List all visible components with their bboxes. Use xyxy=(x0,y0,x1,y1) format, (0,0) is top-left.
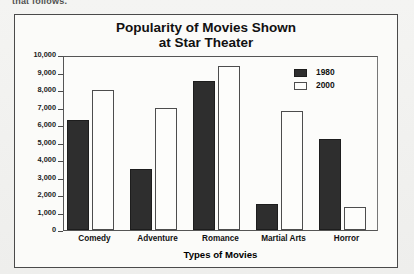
legend-swatch-2000 xyxy=(294,82,307,90)
y-axis-tick-label: 0 xyxy=(52,225,56,234)
chart-title: Popularity of Movies Shown at Star Theat… xyxy=(15,20,397,50)
bar-group xyxy=(64,57,127,230)
x-axis-label-horror: Horror xyxy=(315,234,378,243)
bar-adventure-2000 xyxy=(155,108,177,231)
y-axis-tick-label: 1,000 xyxy=(38,208,57,217)
legend-swatch-1980 xyxy=(294,69,307,77)
legend-label-1980: 1980 xyxy=(316,68,335,76)
chart-legend: 19802000 xyxy=(294,67,335,93)
top-caption: that follows. xyxy=(12,0,67,6)
bar-group xyxy=(190,57,253,230)
y-axis-tick-label: 9,000 xyxy=(38,68,57,77)
bar-horror-2000 xyxy=(344,207,366,230)
bar-romance-2000 xyxy=(218,66,240,231)
chart-title-line-1: Popularity of Movies Shown xyxy=(15,20,397,35)
bar-comedy-1980 xyxy=(67,120,89,230)
bar-adventure-1980 xyxy=(130,169,152,230)
x-axis-title: Types of Movies xyxy=(63,249,378,260)
x-axis-label-comedy: Comedy xyxy=(63,234,126,243)
y-axis-tick-label: 4,000 xyxy=(38,155,57,164)
bar-martial-arts-2000 xyxy=(281,111,303,230)
y-axis-tick-mark xyxy=(58,231,63,232)
chart-title-line-2: at Star Theater xyxy=(15,35,397,50)
legend-label-2000: 2000 xyxy=(316,81,335,89)
y-axis-tick-label: 2,000 xyxy=(38,190,57,199)
y-axis-tick-label: 6,000 xyxy=(38,120,57,129)
y-axis-tick-label: 5,000 xyxy=(38,138,57,147)
legend-item-2000: 2000 xyxy=(294,80,335,91)
x-axis-label-adventure: Adventure xyxy=(126,234,189,243)
y-axis-tick-label: 10,000 xyxy=(33,50,56,59)
y-axis-tick-label: 8,000 xyxy=(38,85,57,94)
x-axis-label-martial-arts: Martial Arts xyxy=(252,234,315,243)
y-axis-tick-label: 3,000 xyxy=(38,173,57,182)
bar-romance-1980 xyxy=(193,81,215,230)
bar-martial-arts-1980 xyxy=(256,204,278,230)
figure-frame: Popularity of Movies Shown at Star Theat… xyxy=(14,14,398,268)
y-axis-tick-label: 7,000 xyxy=(38,103,57,112)
x-axis-label-romance: Romance xyxy=(189,234,252,243)
bar-horror-1980 xyxy=(319,139,341,230)
legend-item-1980: 1980 xyxy=(294,67,335,78)
bar-comedy-2000 xyxy=(92,90,114,230)
bar-group xyxy=(127,57,190,230)
